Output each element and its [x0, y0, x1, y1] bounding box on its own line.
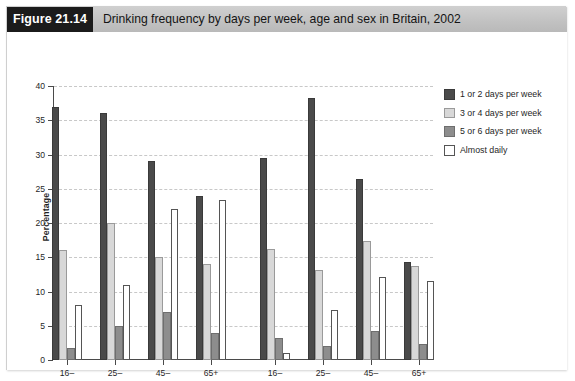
- x-axis-tick: [371, 360, 372, 365]
- x-axis-category-label: 45–: [351, 368, 391, 378]
- x-axis-category-label: 45–: [143, 368, 183, 378]
- y-axis-tick-label: 15: [11, 252, 45, 262]
- x-axis-tick: [323, 360, 324, 365]
- x-axis-category-label: 25–: [95, 368, 135, 378]
- bar: [211, 333, 218, 360]
- bar-group: [196, 86, 227, 360]
- x-axis-tick: [211, 360, 212, 365]
- bar: [275, 338, 282, 360]
- legend-item[interactable]: 5 or 6 days per week: [444, 124, 564, 140]
- x-axis-category-label: 16–: [255, 368, 295, 378]
- x-axis-category-label: 16–: [47, 368, 87, 378]
- legend-swatch-icon: [444, 108, 455, 119]
- bar: [107, 223, 114, 360]
- bar: [267, 249, 274, 360]
- x-axis-tick: [67, 360, 68, 365]
- bar: [203, 264, 210, 360]
- figure-number-tag: Figure 21.14: [7, 7, 93, 32]
- bar: [427, 281, 434, 360]
- bar: [419, 344, 426, 360]
- bar: [323, 346, 330, 360]
- figure-card: Figure 21.14 Drinking frequency by days …: [6, 6, 566, 370]
- chart-legend: 1 or 2 days per week3 or 4 days per week…: [444, 87, 564, 162]
- bar-group: [52, 86, 83, 360]
- bar-group: [308, 86, 339, 360]
- bar: [171, 209, 178, 360]
- legend-label: Almost daily: [460, 143, 507, 157]
- x-axis-tick: [419, 360, 420, 365]
- x-axis-tick: [115, 360, 116, 365]
- bar-group: [404, 86, 435, 360]
- chart-plot-area: Percentage 0510152025303540 16–25–45–65+…: [7, 32, 567, 370]
- legend-label: 5 or 6 days per week: [460, 124, 542, 138]
- bar-group: [148, 86, 179, 360]
- legend-label: 3 or 4 days per week: [460, 106, 542, 120]
- bar: [123, 285, 130, 360]
- bar: [75, 305, 82, 360]
- legend-item[interactable]: Almost daily: [444, 143, 564, 159]
- bar: [356, 179, 363, 360]
- figure-header-bar: Figure 21.14 Drinking frequency by days …: [7, 7, 567, 32]
- bar: [115, 326, 122, 360]
- bar-group: [260, 86, 291, 360]
- bar: [371, 331, 378, 360]
- bar: [283, 353, 290, 360]
- x-axis-tick: [163, 360, 164, 365]
- y-axis-tick-label: 20: [11, 218, 45, 228]
- y-axis-tick-label: 35: [11, 115, 45, 125]
- y-axis-tick-label: 10: [11, 287, 45, 297]
- x-axis-category-label: 25–: [303, 368, 343, 378]
- bar: [308, 98, 315, 360]
- bar: [379, 277, 386, 360]
- y-axis-tick-label: 25: [11, 184, 45, 194]
- legend-swatch-icon: [444, 89, 455, 100]
- x-axis-category-label: 65+: [399, 368, 439, 378]
- bar: [363, 241, 370, 360]
- bar-group: [356, 86, 387, 360]
- x-axis-category-label: 65+: [191, 368, 231, 378]
- legend-swatch-icon: [444, 145, 455, 156]
- y-axis-tick-label: 30: [11, 150, 45, 160]
- bar: [411, 266, 418, 360]
- bar: [59, 250, 66, 360]
- bar: [219, 200, 226, 360]
- bar: [404, 262, 411, 360]
- bar: [100, 113, 107, 360]
- bar-group: [100, 86, 131, 360]
- bar: [67, 348, 74, 360]
- bar: [331, 310, 338, 360]
- bar: [52, 107, 59, 360]
- y-axis-tick-label: 5: [11, 321, 45, 331]
- figure-title: Drinking frequency by days per week, age…: [103, 7, 461, 32]
- legend-item[interactable]: 1 or 2 days per week: [444, 87, 564, 103]
- y-axis-tick-label: 0: [11, 355, 45, 365]
- bars-layer: [53, 86, 433, 360]
- bar: [260, 158, 267, 360]
- bar: [155, 257, 162, 360]
- legend-item[interactable]: 3 or 4 days per week: [444, 106, 564, 122]
- legend-label: 1 or 2 days per week: [460, 87, 542, 101]
- bar: [315, 270, 322, 360]
- x-axis-tick: [275, 360, 276, 365]
- bar: [148, 161, 155, 360]
- legend-swatch-icon: [444, 126, 455, 137]
- bar: [163, 312, 170, 360]
- y-axis-tick-label: 40: [11, 81, 45, 91]
- bar: [196, 196, 203, 360]
- y-axis-tick: [48, 360, 53, 361]
